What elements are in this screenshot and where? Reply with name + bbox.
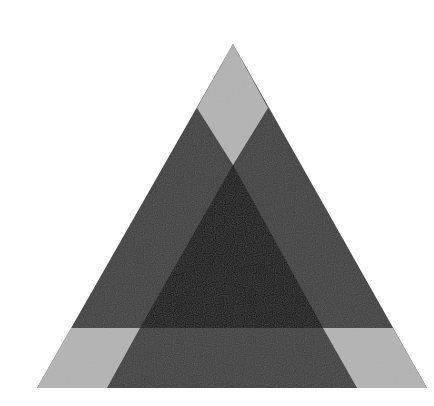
triangle-diagram	[0, 0, 434, 406]
triangle-figure: Large triangle subdivided into overlappi…	[0, 0, 434, 406]
